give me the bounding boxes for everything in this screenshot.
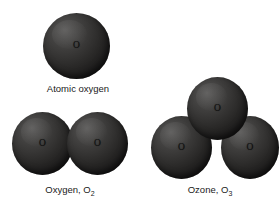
caption-subscript: 3	[228, 190, 232, 197]
atom-element-label: O	[151, 143, 212, 153]
caption-text: Ozone, O	[188, 184, 229, 195]
molecule-ozone: O O O Ozone, O3	[140, 60, 280, 207]
molecule-atomic-oxygen: O Atomic oxygen	[0, 0, 140, 100]
atom-element-label: O	[43, 41, 110, 51]
oxygen-allotropes-figure: O Atomic oxygen O O Oxygen, O2 O O O Ozo…	[0, 0, 280, 207]
atom-sphere-oxygen-top: O	[187, 77, 248, 140]
atom-element-label: O	[221, 143, 279, 153]
caption-ozone: Ozone, O3	[140, 185, 280, 195]
caption-subscript: 2	[91, 190, 95, 197]
atom-sphere-oxygen-left: O	[12, 112, 73, 175]
atom-element-label: O	[12, 139, 73, 149]
caption-text: Atomic oxygen	[47, 83, 109, 94]
atom-sphere-oxygen: O	[43, 13, 110, 79]
molecule-dioxygen: O O Oxygen, O2	[0, 100, 145, 207]
atom-sphere-oxygen-right: O	[67, 112, 128, 175]
atom-element-label: O	[187, 104, 248, 114]
caption-atomic-oxygen: Atomic oxygen	[8, 84, 148, 94]
caption-text: Oxygen, O	[45, 184, 90, 195]
atom-element-label: O	[67, 139, 128, 149]
caption-dioxygen: Oxygen, O2	[0, 185, 140, 195]
